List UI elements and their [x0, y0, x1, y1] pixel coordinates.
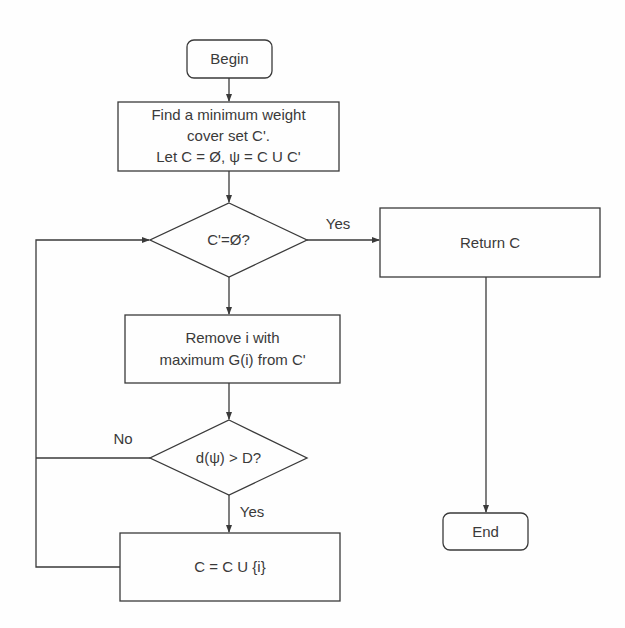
check-distance-node-label: d(ψ) > D?: [150, 420, 307, 495]
remove-i-line-1: Remove i with: [125, 327, 340, 349]
find-cover-line-3: Let C = Ø, ψ = C U C': [118, 146, 339, 167]
check-empty-node-label: C'=Ø?: [150, 203, 307, 277]
edge-label-empty-yes: Yes: [320, 215, 356, 233]
find-cover-node-label: Find a minimum weight cover set C'. Let …: [118, 104, 339, 167]
remove-i-line-2: maximum G(i) from C': [125, 349, 340, 371]
edge-label-distance-no: No: [105, 430, 141, 448]
remove-i-node-label: Remove i with maximum G(i) from C': [125, 327, 340, 371]
return-c-node-label: Return C: [380, 208, 600, 277]
find-cover-line-2: cover set C'.: [118, 125, 339, 146]
edge-label-distance-yes: Yes: [234, 503, 270, 521]
begin-node-label: Begin: [187, 40, 272, 78]
end-node-label: End: [443, 513, 528, 550]
find-cover-line-1: Find a minimum weight: [118, 104, 339, 125]
add-i-node-label: C = C U {i}: [120, 533, 340, 601]
flowchart-canvas: Begin Find a minimum weight cover set C'…: [0, 0, 625, 628]
